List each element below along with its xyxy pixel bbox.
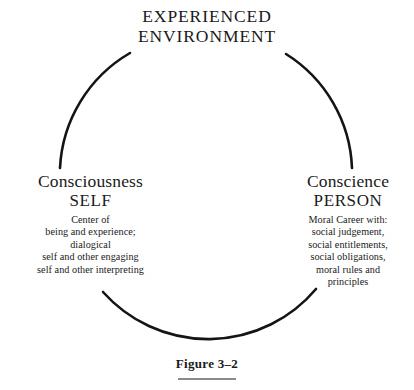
- consciousness-body: Center of being and experience; dialogic…: [3, 214, 178, 276]
- top-left-arc: [60, 53, 130, 168]
- caption-rule: [178, 378, 236, 380]
- consciousness-body-line: self and other interpreting: [3, 264, 178, 276]
- node-conscience-person: Conscience PERSON Moral Career with: soc…: [262, 172, 414, 288]
- conscience-title: Conscience: [262, 172, 414, 191]
- environment-line-2: ENVIRONMENT: [107, 26, 307, 46]
- consciousness-body-line: Center of: [3, 214, 178, 226]
- bottom-arc: [103, 289, 316, 339]
- consciousness-body-line: self and other engaging: [3, 251, 178, 263]
- consciousness-title: Consciousness: [3, 172, 178, 191]
- conscience-body: Moral Career with: social judgement, soc…: [262, 214, 414, 288]
- node-consciousness-self: Consciousness SELF Center of being and e…: [3, 172, 178, 276]
- top-right-arc: [286, 54, 352, 168]
- conscience-body-line: Moral Career with:: [262, 214, 414, 226]
- consciousness-body-line: dialogical: [3, 239, 178, 251]
- node-experienced-environment: EXPERIENCED ENVIRONMENT: [107, 6, 307, 46]
- conscience-body-line: social judgement,: [262, 226, 414, 238]
- conscience-body-line: principles: [262, 276, 414, 288]
- consciousness-body-line: being and experience;: [3, 226, 178, 238]
- environment-line-1: EXPERIENCED: [107, 6, 307, 26]
- figure-caption: Figure 3–2: [0, 356, 414, 380]
- figure-caption-text: Figure 3–2: [0, 356, 414, 372]
- conscience-body-line: social entitlements,: [262, 239, 414, 251]
- consciousness-subtitle: SELF: [3, 191, 178, 211]
- conscience-body-line: social obligations,: [262, 251, 414, 263]
- conscience-subtitle: PERSON: [262, 191, 414, 211]
- conscience-body-line: moral rules and: [262, 264, 414, 276]
